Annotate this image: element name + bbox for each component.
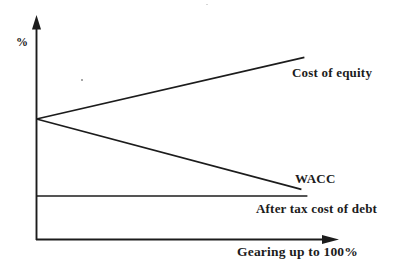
x-axis-arrowhead-icon (322, 235, 339, 244)
y-axis-arrowhead-icon (32, 15, 41, 30)
y-axis-label: % (16, 36, 28, 49)
after-tax-cost-of-debt-label: After tax cost of debt (256, 202, 377, 216)
cost-of-equity-line (37, 57, 305, 119)
wacc-gearing-chart: % Cost of equity WACC After tax cost of … (0, 0, 394, 270)
cost-of-equity-label: Cost of equity (292, 66, 372, 80)
wacc-line (37, 119, 302, 189)
wacc-label: WACC (295, 172, 336, 186)
scan-speck (206, 4, 208, 5)
scan-speck (81, 79, 83, 81)
chart-canvas (0, 0, 394, 270)
x-axis-label: Gearing up to 100% (237, 245, 358, 260)
